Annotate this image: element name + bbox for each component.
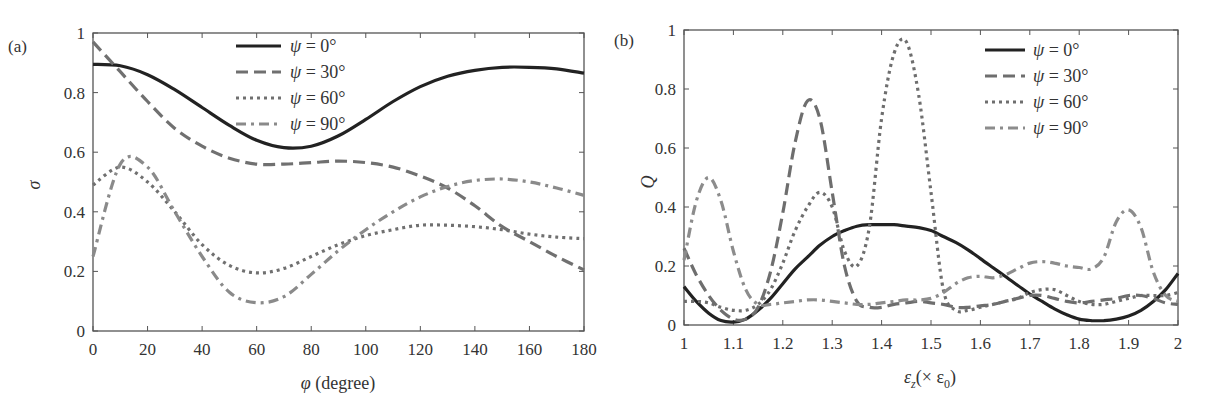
x-tick-label: 80 <box>303 340 320 359</box>
x-tick-label: 160 <box>517 340 543 359</box>
series-line <box>684 100 1178 321</box>
panel-b-lines <box>684 39 1178 322</box>
x-tick-label: 100 <box>353 340 379 359</box>
x-tick-label: 1.8 <box>1069 334 1090 353</box>
x-tick-label: 1.1 <box>723 334 744 353</box>
x-tick-label: 1.6 <box>970 334 991 353</box>
panel-b-y-axis-title: Q <box>638 176 658 189</box>
x-tick-label: 60 <box>248 340 265 359</box>
y-tick-label: 0.6 <box>655 139 676 158</box>
y-tick-label: 0.2 <box>655 257 676 276</box>
panel-a-legend: ψ = 0°ψ = 30°ψ = 60°ψ = 90° <box>236 36 346 134</box>
x-tick-label: 20 <box>139 340 156 359</box>
legend-entry-label: ψ = 0° <box>290 36 337 56</box>
legend-entry-label: ψ = 30° <box>1033 66 1089 86</box>
series-line <box>684 178 1178 306</box>
y-tick-label: 0.2 <box>64 262 85 281</box>
y-tick-label: 1 <box>668 21 677 40</box>
x-tick-label: 1.5 <box>920 334 941 353</box>
y-tick-label: 0.4 <box>655 198 677 217</box>
panel-b-axes-frame <box>684 30 1178 325</box>
panel-b-x-axis-title: εz(× ε0) <box>904 367 956 391</box>
series-line <box>684 39 1178 312</box>
panel-b-ticks: 11.11.21.31.41.51.61.71.81.9200.20.40.60… <box>655 21 1183 353</box>
y-tick-label: 0.8 <box>64 84 85 103</box>
x-tick-label: 180 <box>571 340 597 359</box>
y-tick-label: 0.8 <box>655 80 676 99</box>
x-tick-label: 1.2 <box>772 334 793 353</box>
panel-a-x-axis-title: φ (degree) <box>301 373 375 394</box>
legend-entry-label: ψ = 60° <box>1033 92 1089 112</box>
x-tick-label: 1.3 <box>822 334 843 353</box>
y-tick-label: 0 <box>668 316 677 335</box>
panel-a: (a) 02040608010012014016018000.20.40.60.… <box>8 24 597 394</box>
x-tick-label: 40 <box>194 340 211 359</box>
y-tick-label: 0.6 <box>64 143 85 162</box>
series-line <box>93 156 584 302</box>
x-tick-label: 1.7 <box>1019 334 1041 353</box>
legend-entry-label: ψ = 90° <box>290 114 346 134</box>
y-tick-label: 0 <box>77 322 86 341</box>
y-tick-label: 1 <box>77 24 86 43</box>
x-tick-label: 0 <box>89 340 98 359</box>
x-tick-label: 140 <box>462 340 488 359</box>
panel-a-label: (a) <box>8 37 27 56</box>
y-tick-label: 0.4 <box>64 203 86 222</box>
legend-entry-label: ψ = 90° <box>1033 118 1089 138</box>
legend-entry-label: ψ = 60° <box>290 88 346 108</box>
panel-a-y-axis-title: σ <box>24 179 44 189</box>
x-tick-label: 2 <box>1174 334 1183 353</box>
legend-entry-label: ψ = 0° <box>1033 40 1080 60</box>
figure: (a) 02040608010012014016018000.20.40.60.… <box>0 0 1207 412</box>
x-tick-label: 1.4 <box>871 334 893 353</box>
x-tick-label: 1 <box>680 334 689 353</box>
series-line <box>93 167 584 273</box>
panel-b-label: (b) <box>614 31 634 50</box>
x-tick-label: 120 <box>408 340 434 359</box>
x-tick-label: 1.9 <box>1118 334 1139 353</box>
legend-entry-label: ψ = 30° <box>290 62 346 82</box>
panel-b: (b) 11.11.21.31.41.51.61.71.81.9200.20.4… <box>614 21 1182 391</box>
panel-b-legend: ψ = 0°ψ = 30°ψ = 60°ψ = 90° <box>985 40 1089 138</box>
